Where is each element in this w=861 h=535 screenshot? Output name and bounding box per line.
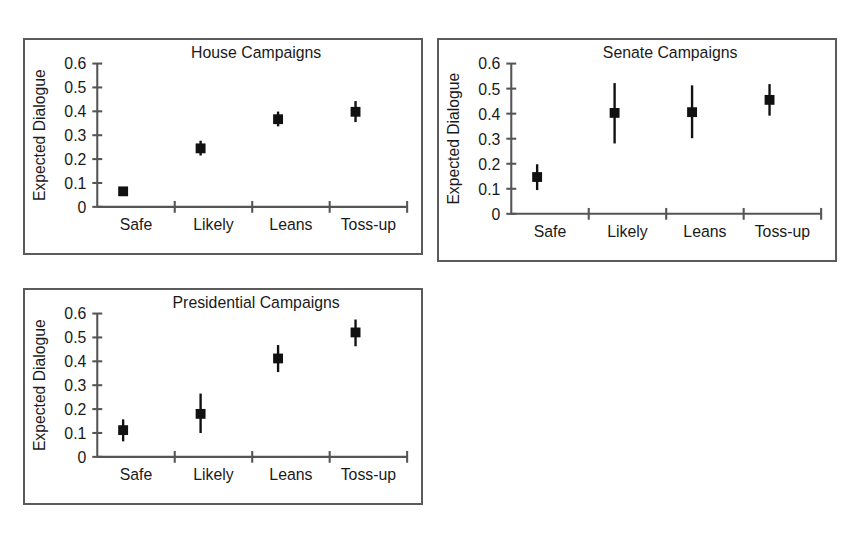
y-tick-label: 0 [492,206,501,223]
data-marker [351,107,361,117]
panel-presidential-campaigns: Presidential CampaignsExpected Dialogue0… [23,288,423,505]
y-tick-label: 0.6 [64,56,86,73]
y-tick-label: 0.2 [478,156,500,173]
y-tick-label: 0.1 [64,175,86,192]
data-point-group [196,141,206,156]
chart-senate-campaigns: Senate CampaignsExpected Dialogue00.10.2… [439,40,835,260]
x-tick-label: Leans [269,466,312,483]
data-point-group [351,101,361,122]
data-point-group [765,84,775,116]
y-tick-label: 0.3 [478,131,500,148]
y-tick-label: 0 [78,199,87,216]
y-tick-label: 0.4 [64,353,86,370]
x-tick-label: Leans [683,223,726,240]
data-point-group [118,186,128,196]
y-tick-label: 0.3 [64,377,86,394]
y-tick-label: 0.2 [64,401,86,418]
y-tick-label: 0.1 [478,181,500,198]
y-tick-label: 0 [78,449,87,466]
data-marker [118,186,128,196]
data-marker [351,328,361,338]
data-point-group [687,85,697,138]
x-tick-label: Likely [607,223,648,240]
chart-title: Presidential Campaigns [173,294,340,311]
y-axis-label: Expected Dialogue [31,319,48,451]
data-point-group [273,112,283,127]
chart-title: House Campaigns [191,44,321,61]
chart-title: Senate Campaigns [603,44,738,61]
data-marker [273,354,283,364]
x-tick-label: Safe [120,466,153,483]
y-tick-label: 0.1 [64,425,86,442]
data-marker [196,409,206,419]
x-tick-label: Likely [193,466,234,483]
data-point-group [273,345,283,372]
data-marker [118,425,128,435]
data-marker [532,172,542,182]
data-point-group [532,164,542,190]
x-tick-label: Toss-up [341,216,397,233]
y-axis-label: Expected Dialogue [445,73,462,205]
data-marker [765,95,775,105]
x-tick-label: Leans [269,216,312,233]
data-marker [610,108,620,118]
data-marker [687,107,697,117]
y-tick-label: 0.4 [478,106,500,123]
y-tick-label: 0.2 [64,151,86,168]
y-tick-label: 0.3 [64,127,86,144]
chart-presidential-campaigns: Presidential CampaignsExpected Dialogue0… [25,290,421,503]
y-tick-label: 0.5 [64,329,86,346]
figure-root: House CampaignsExpected Dialogue00.10.20… [0,0,861,535]
chart-house-campaigns: House CampaignsExpected Dialogue00.10.20… [25,40,421,253]
data-point-group [610,83,620,143]
y-tick-label: 0.5 [64,79,86,96]
y-tick-label: 0.6 [478,56,500,73]
y-tick-label: 0.5 [478,81,500,98]
panel-senate-campaigns: Senate CampaignsExpected Dialogue00.10.2… [437,38,837,262]
x-tick-label: Safe [120,216,153,233]
y-tick-label: 0.6 [64,306,86,323]
data-point-group [196,394,206,433]
x-tick-label: Toss-up [755,223,811,240]
data-point-group [351,320,361,347]
x-tick-label: Likely [193,216,234,233]
panel-house-campaigns: House CampaignsExpected Dialogue00.10.20… [23,38,423,255]
x-tick-label: Toss-up [341,466,397,483]
data-marker [273,114,283,124]
y-tick-label: 0.4 [64,103,86,120]
data-marker [196,143,206,153]
y-axis-label: Expected Dialogue [31,69,48,201]
data-point-group [118,419,128,441]
x-tick-label: Safe [534,223,567,240]
